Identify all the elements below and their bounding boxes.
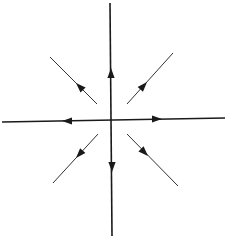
horizontal-axis	[2, 118, 225, 122]
arrow-left-arrowhead-icon	[62, 117, 72, 124]
diagram-canvas	[0, 0, 231, 246]
trajectory-upper-right	[127, 53, 173, 104]
phase-portrait-diagram	[0, 0, 231, 246]
axes	[2, 3, 225, 236]
trajectory-upper-left	[50, 57, 97, 104]
arrow-right-arrowhead-icon	[152, 115, 162, 122]
arrow-up-arrowhead-icon	[107, 68, 114, 78]
trajectory-lower-left	[53, 134, 98, 183]
arrow-down-arrowhead-icon	[108, 162, 115, 172]
trajectory-lower-right	[127, 134, 178, 186]
